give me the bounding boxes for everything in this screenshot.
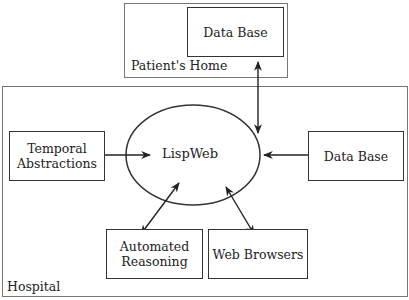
web-browsers-label: Web Browsers [213,247,304,262]
automated-reasoning-line1: Automated [120,239,189,254]
hospital-database-node: Data Base [308,131,404,181]
edge-lispweb-web-browsers [226,187,254,234]
temporal-abstractions-line1: Temporal [27,141,87,156]
web-browsers-node: Web Browsers [208,229,308,279]
hospital-database-label: Data Base [324,149,388,164]
lispweb-label: LispWeb [162,146,218,161]
temporal-abstractions-line2: Abstractions [17,156,97,171]
automated-reasoning-node: Automated Reasoning [106,229,203,279]
temporal-abstractions-node: Temporal Abstractions [9,131,105,181]
automated-reasoning-line2: Reasoning [121,254,187,269]
